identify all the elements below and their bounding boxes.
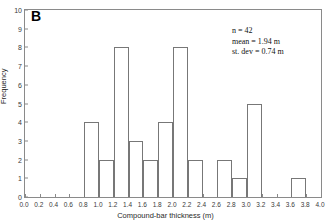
histogram-figure: 012345678910 B Frequency Compound-bar th… (0, 0, 331, 224)
histogram-bar (129, 141, 144, 197)
x-tick-label: 2.2 (182, 201, 191, 208)
stats-mean: mean = 1.94 m (232, 37, 284, 48)
histogram-bar (84, 122, 99, 197)
x-tick-mark (55, 194, 56, 197)
x-tick-label: 3.8 (301, 201, 310, 208)
x-tick-label: 3.2 (256, 201, 265, 208)
x-tick-mark (25, 194, 26, 197)
y-tick-label: 3 (18, 137, 22, 144)
x-tick-label: 0.0 (19, 201, 28, 208)
x-tick-mark (277, 194, 278, 197)
y-tick-mark (25, 10, 28, 11)
x-tick-label: 2.0 (167, 201, 176, 208)
x-tick-label: 1.4 (123, 201, 132, 208)
panel-label: B (31, 9, 41, 24)
x-tick-label: 0.2 (34, 201, 43, 208)
x-axis-label: Compound-bar thickness (m) (0, 211, 331, 220)
x-tick-label: 0.4 (49, 201, 58, 208)
y-tick-label: 1 (18, 175, 22, 182)
y-tick-mark (25, 47, 28, 48)
histogram-bar (247, 104, 262, 198)
y-tick-mark (25, 178, 28, 179)
x-tick-label: 3.6 (286, 201, 295, 208)
x-tick-label: 1.8 (153, 201, 162, 208)
y-tick-label: 2 (18, 156, 22, 163)
x-tick-mark (321, 194, 322, 197)
y-tick-mark (25, 28, 28, 29)
histogram-bar (143, 160, 158, 197)
stats-stdev: st. dev = 0.74 m (232, 47, 284, 58)
histogram-bar (99, 160, 114, 197)
y-tick-label: 4 (18, 119, 22, 126)
y-tick-label: 7 (18, 63, 22, 70)
x-tick-mark (69, 194, 70, 197)
x-tick-label: 2.4 (197, 201, 206, 208)
x-tick-label: 1.6 (138, 201, 147, 208)
histogram-bar (217, 160, 232, 197)
x-tick-mark (40, 194, 41, 197)
y-tick-mark (25, 140, 28, 141)
histogram-bar (232, 178, 247, 197)
x-tick-label: 1.0 (93, 201, 102, 208)
histogram-bar (158, 122, 173, 197)
y-tick-label: 8 (18, 44, 22, 51)
y-axis-label: Frequency (0, 69, 8, 104)
y-tick-label: 0 (18, 194, 22, 201)
y-tick-mark (25, 66, 28, 67)
x-tick-label: 4.0 (315, 201, 324, 208)
histogram-bar (291, 178, 306, 197)
x-tick-label: 2.6 (212, 201, 221, 208)
y-tick-mark (25, 122, 28, 123)
histogram-bar (188, 160, 203, 197)
y-tick-label: 6 (18, 81, 22, 88)
x-tick-label: 1.2 (108, 201, 117, 208)
histogram-bar (173, 47, 188, 197)
y-tick-mark (25, 103, 28, 104)
x-tick-mark (203, 194, 204, 197)
y-tick-label: 5 (18, 100, 22, 107)
y-tick-mark (25, 159, 28, 160)
histogram-bar (114, 47, 129, 197)
x-tick-label: 2.8 (227, 201, 236, 208)
x-tick-mark (306, 194, 307, 197)
x-tick-mark (262, 194, 263, 197)
y-tick-label: 9 (18, 25, 22, 32)
y-tick-mark (25, 84, 28, 85)
stats-annotation: n = 42 mean = 1.94 m st. dev = 0.74 m (232, 26, 284, 58)
x-tick-label: 3.0 (241, 201, 250, 208)
y-tick-label: 10 (14, 7, 22, 14)
stats-n: n = 42 (232, 26, 284, 37)
x-tick-label: 0.8 (79, 201, 88, 208)
x-tick-label: 3.4 (271, 201, 280, 208)
x-tick-label: 0.6 (64, 201, 73, 208)
